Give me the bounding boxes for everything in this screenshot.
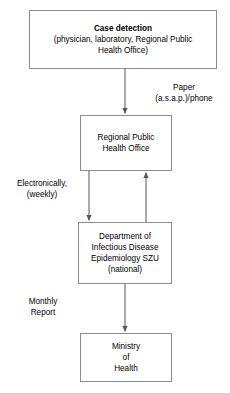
edge-label-electronically-weekly: Electronically, (weekly) (2, 178, 82, 200)
node-ministry-of-health: Ministry of Health (80, 333, 172, 382)
edge-label-monthly-report: Monthly Report (8, 296, 78, 318)
node-department-szu-line4: (national) (108, 264, 142, 275)
node-regional-office-line1: Regional Public (98, 132, 155, 143)
node-department-infectious-disease-epidemiology-szu: Department of Infectious Disease Epidemi… (78, 222, 172, 284)
node-regional-office-line2: Health Office (102, 143, 149, 154)
node-department-szu-line3: Epidemiology SZU (91, 253, 159, 264)
node-case-detection-title: Case detection (94, 23, 152, 34)
node-department-szu-line2: Infectious Disease (92, 242, 159, 253)
edge-label-paper-asap-phone: Paper (a.s.a.p.)/phone (140, 82, 228, 104)
edge-label-paper-line1: Paper (140, 82, 228, 93)
edge-label-electronic-line1: Electronically, (2, 178, 82, 189)
edge-label-electronic-line2: (weekly) (2, 189, 82, 200)
node-ministry-health-line2: of (123, 352, 130, 363)
edge-label-paper-line2: (a.s.a.p.)/phone (140, 93, 228, 104)
edge-label-monthly-line1: Monthly (8, 296, 78, 307)
node-regional-public-health-office: Regional Public Health Office (80, 115, 172, 171)
node-ministry-health-line1: Ministry (112, 341, 140, 352)
node-ministry-health-line3: Health (114, 363, 138, 374)
node-case-detection-line2: Health Office) (98, 45, 148, 56)
node-case-detection: Case detection (physician, laboratory, R… (29, 10, 217, 69)
edge-label-monthly-line2: Report (8, 307, 78, 318)
node-case-detection-line1: (physician, laboratory, Regional Public (54, 34, 193, 45)
node-department-szu-line1: Department of (99, 231, 151, 242)
flowchart-diagram: Case detection (physician, laboratory, R… (0, 0, 230, 393)
